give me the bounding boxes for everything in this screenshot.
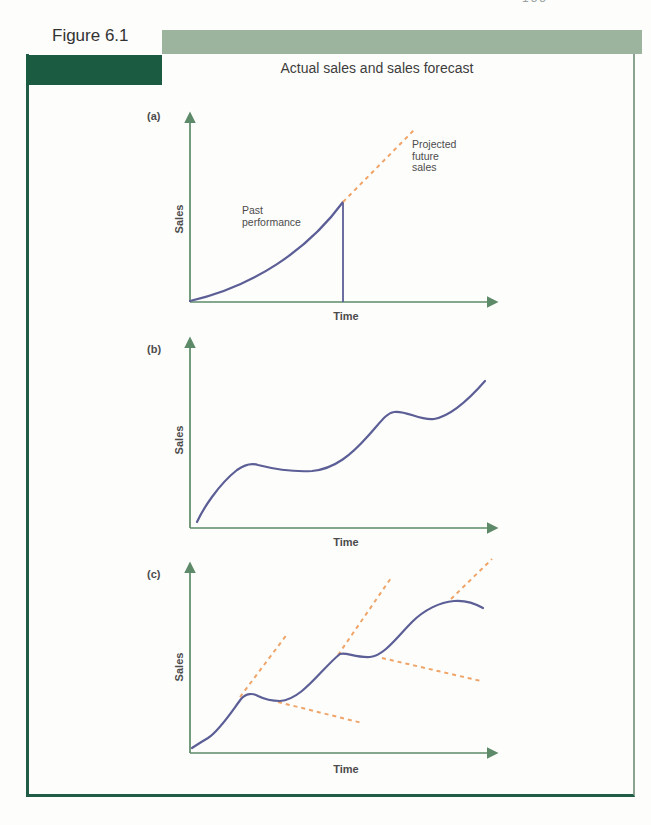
figure-title: Actual sales and sales forecast	[177, 60, 577, 76]
figure-header-bar	[162, 30, 642, 54]
chart-a-y-axis-label: Sales	[173, 205, 185, 234]
chart-c-forecast-line-1	[240, 633, 288, 697]
figure-label: Figure 6.1	[52, 26, 129, 46]
chart-b-y-axis-label: Sales	[173, 426, 185, 455]
chart-c-forecast-line-5	[451, 559, 492, 599]
panel-label-c: (c)	[147, 568, 160, 580]
chart-c-actual-sales-curve	[192, 601, 483, 748]
chart-a-x-axis-label: Time	[333, 310, 358, 322]
chart-c-forecast-line-4	[382, 658, 481, 681]
chart-c-forecast-line-3	[338, 578, 391, 655]
panel-label-a: (a)	[147, 110, 160, 122]
chart-c-canvas	[140, 558, 510, 773]
chart-b-actual-sales-curve	[197, 381, 485, 522]
panel-label-b: (b)	[147, 343, 161, 355]
chart-b-canvas	[140, 333, 510, 548]
chart-a-past-performance-annotation: Past performance	[242, 205, 301, 228]
chart-a-projected-sales-annotation: Projected future sales	[412, 139, 456, 174]
chart-c-x-axis-label: Time	[333, 763, 358, 775]
chart-b-x-axis-label: Time	[333, 536, 358, 548]
figure-header-accent-box	[26, 55, 162, 85]
page-number: 155	[522, 0, 582, 5]
book-figure-page: 155 Figure 6.1 Actual sales and sales fo…	[0, 0, 651, 825]
page-number-text: 155	[522, 0, 582, 5]
chart-c-y-axis-label: Sales	[173, 653, 185, 682]
chart-c-forecast-line-2	[278, 702, 362, 723]
chart-a-projected-sales-line	[343, 128, 416, 202]
